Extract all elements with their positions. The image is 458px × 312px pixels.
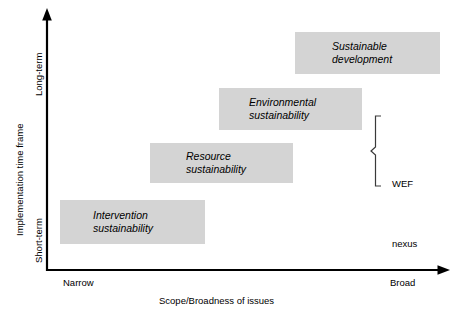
box-resource-sustainability: Resource sustainability xyxy=(150,143,293,183)
box-label-line1: Environmental xyxy=(249,96,362,110)
wef-nexus-label: WEF nexus xyxy=(392,134,417,294)
x-axis-arrowhead xyxy=(438,265,451,275)
box-sustainable-development: Sustainable development xyxy=(295,32,440,74)
sustainability-scope-time-diagram: Implementation time frame Long-term Shor… xyxy=(0,0,458,312)
x-axis-title: Scope/Broadness of issues xyxy=(159,295,274,306)
box-label-line2: development xyxy=(332,53,440,67)
y-axis-title: Implementation time frame xyxy=(14,124,25,236)
box-label-line2: sustainability xyxy=(249,109,362,123)
y-axis-arrowhead xyxy=(42,8,52,21)
y-axis-bottom-label: Short-term xyxy=(33,218,44,263)
box-label-line1: Intervention xyxy=(93,209,205,223)
box-label-line2: sustainability xyxy=(186,163,293,177)
box-environmental-sustainability: Environmental sustainability xyxy=(219,88,362,130)
wef-nexus-label-line1: WEF xyxy=(392,174,417,194)
box-label-line2: sustainability xyxy=(93,222,205,236)
box-label-line1: Resource xyxy=(186,150,293,164)
wef-nexus-label-line2: nexus xyxy=(392,234,417,254)
box-label-line1: Sustainable xyxy=(332,40,440,54)
x-axis-left-label: Narrow xyxy=(63,277,94,288)
wef-nexus-bracket xyxy=(371,116,381,186)
box-intervention-sustainability: Intervention sustainability xyxy=(60,200,205,244)
y-axis-top-label: Long-term xyxy=(33,53,44,96)
